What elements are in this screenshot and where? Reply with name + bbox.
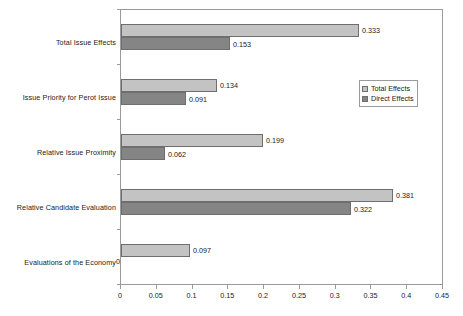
x-tick-mark-6 [335,285,336,289]
x-tick-mark-3 [227,285,228,289]
legend-swatch-icon-total-effects [362,86,368,92]
x-tick-mark-8 [406,285,407,289]
bar-direct-effects-2[interactable] [121,147,165,160]
bar-value-direct-4: 0.153 [233,40,251,49]
legend-swatch-icon-direct-effects [362,96,368,102]
category-tick-2 [117,174,120,175]
bar-value-direct-1: 0.322 [354,205,372,214]
legend-item-direct-effects[interactable]: Direct Effects [362,94,414,103]
category-label-1: Relative Candidate Evaluation [0,203,116,212]
bar-total-effects-2[interactable] [121,134,263,147]
x-tick-label-8: 0.4 [401,291,411,300]
bar-value-total-1: 0.381 [396,191,414,200]
chart-legend: Total Effects Direct Effects [359,80,418,107]
legend-label-direct-effects: Direct Effects [371,94,414,103]
category-axis: Total Issue Effects Issue Priority for P… [0,9,116,285]
bar-value-total-3: 0.134 [220,81,238,90]
category-label-0: Evaluations of the Economy [0,258,116,267]
x-tick-label-0: 0 [118,291,122,300]
bar-value-total-0: 0.097 [193,246,211,255]
x-tick-label-3: 0.15 [220,291,234,300]
category-tick-top [117,9,120,10]
bar-value-direct-3: 0.091 [189,95,207,104]
bars-layer: 0.333 0.153 0.134 0.091 0.199 0.062 0.38… [121,10,442,284]
x-tick-mark-1 [156,285,157,289]
x-axis: 0 0.05 0.1 0.15 0.2 0.25 0.3 0.35 0.4 0.… [120,285,443,305]
x-tick-label-2: 0.1 [187,291,197,300]
bar-total-effects-0[interactable] [121,244,190,257]
x-tick-label-6: 0.3 [330,291,340,300]
category-tick-3 [117,119,120,120]
category-label-3: Issue Priority for Perot Issue [0,93,116,102]
category-label-2: Relative Issue Proximity [0,148,116,157]
legend-label-total-effects: Total Effects [371,84,410,93]
bar-direct-effects-3[interactable] [121,92,186,105]
bar-value-direct-0: 0 [112,257,120,266]
bar-total-effects-4[interactable] [121,24,359,37]
x-tick-label-4: 0.2 [258,291,268,300]
x-tick-label-5: 0.25 [292,291,306,300]
category-tick-4 [117,64,120,65]
x-tick-mark-9 [442,285,443,289]
x-tick-mark-2 [192,285,193,289]
bar-chart: Total Issue Effects Issue Priority for P… [0,0,463,316]
x-tick-mark-5 [299,285,300,289]
legend-item-total-effects[interactable]: Total Effects [362,84,414,93]
x-tick-label-9: 0.45 [435,291,449,300]
x-tick-mark-7 [370,285,371,289]
bar-value-direct-2: 0.062 [168,150,186,159]
bar-total-effects-3[interactable] [121,79,217,92]
bar-value-total-2: 0.199 [266,136,284,145]
x-tick-mark-4 [263,285,264,289]
bar-total-effects-1[interactable] [121,189,393,202]
x-tick-label-7: 0.35 [363,291,377,300]
bar-value-total-4: 0.333 [362,26,380,35]
bar-direct-effects-1[interactable] [121,202,351,215]
category-tick-1 [117,229,120,230]
bar-direct-effects-4[interactable] [121,37,230,50]
x-tick-label-1: 0.05 [149,291,163,300]
x-tick-mark-0 [120,285,121,289]
category-label-4: Total Issue Effects [0,38,116,47]
